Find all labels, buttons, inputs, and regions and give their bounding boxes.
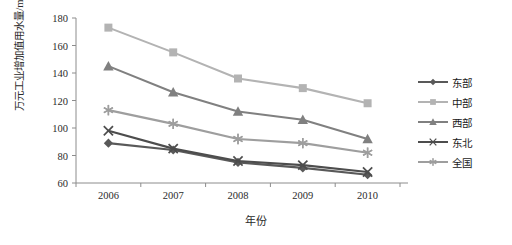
x-tick-label: 2006	[83, 190, 133, 201]
data-point-marker-diamond	[298, 163, 307, 172]
data-point-marker-square	[430, 99, 436, 105]
legend-label: 全国	[452, 155, 472, 170]
legend-swatch-icon	[418, 96, 448, 108]
data-point-marker-asterisk	[363, 148, 372, 158]
x-tick-label: 2008	[213, 190, 263, 201]
series-line	[108, 66, 367, 139]
legend-item-东北[interactable]: 东北	[418, 132, 510, 152]
data-point-marker-x	[104, 126, 113, 135]
legend-label: 西部	[452, 115, 472, 130]
x-axis-title: 年份	[0, 212, 512, 228]
data-point-marker-triangle	[362, 134, 372, 143]
data-point-marker-asterisk	[298, 138, 307, 148]
data-point-marker-diamond	[104, 139, 113, 148]
series-4	[104, 105, 372, 158]
x-tick-label: 2010	[343, 190, 393, 201]
chart-container: 万元工业增加值用水量/m³ 1801601401201008060 200620…	[0, 0, 512, 245]
data-point-marker-triangle	[103, 61, 113, 70]
series-line	[108, 110, 367, 153]
data-point-marker-x	[298, 161, 307, 170]
series-line	[108, 131, 367, 172]
legend-marker-icon	[418, 155, 448, 169]
data-point-marker-diamond	[430, 79, 437, 86]
series-1	[104, 24, 371, 108]
data-point-marker-square	[299, 84, 307, 92]
legend-item-西部[interactable]: 西部	[418, 112, 510, 132]
legend-item-全国[interactable]: 全国	[418, 152, 510, 172]
series-3	[104, 126, 372, 176]
legend-marker-icon	[418, 75, 448, 89]
legend-swatch-icon	[418, 76, 448, 88]
legend-swatch-icon	[418, 136, 448, 148]
legend-marker-icon	[418, 115, 448, 129]
y-axis-title: 万元工业增加值用水量/m³	[11, 0, 26, 134]
legend-label: 东部	[452, 75, 472, 90]
data-point-marker-x	[233, 156, 242, 165]
legend-swatch-icon	[418, 156, 448, 168]
data-point-marker-triangle	[298, 115, 308, 124]
chart-legend: 东部中部西部东北全国	[418, 72, 510, 172]
y-tick-label: 120	[38, 95, 68, 106]
data-point-marker-triangle	[168, 87, 178, 96]
series-line	[108, 28, 367, 104]
data-point-marker-asterisk	[169, 119, 178, 129]
data-point-marker-diamond	[233, 158, 242, 167]
legend-item-东部[interactable]: 东部	[418, 72, 510, 92]
legend-marker-icon	[418, 95, 448, 109]
legend-marker-icon	[418, 135, 448, 149]
y-tick-label: 180	[38, 13, 68, 24]
y-tick-label: 60	[38, 178, 68, 189]
data-point-marker-square	[234, 75, 242, 83]
series-line	[108, 143, 367, 175]
legend-label: 中部	[452, 95, 472, 110]
data-point-marker-asterisk	[430, 158, 436, 165]
y-tick-label: 160	[38, 40, 68, 51]
data-point-marker-diamond	[169, 145, 178, 154]
data-point-marker-square	[169, 48, 177, 56]
series-2	[103, 61, 373, 143]
data-point-marker-x	[169, 144, 178, 153]
data-point-marker-x	[363, 167, 372, 176]
series-0	[104, 139, 372, 180]
data-point-marker-square	[364, 99, 372, 107]
y-tick-label: 80	[38, 150, 68, 161]
data-point-marker-square	[104, 24, 112, 32]
y-tick-label: 140	[38, 68, 68, 79]
y-tick-label: 100	[38, 123, 68, 134]
legend-swatch-icon	[418, 116, 448, 128]
data-point-marker-triangle	[233, 106, 243, 115]
legend-item-中部[interactable]: 中部	[418, 92, 510, 112]
x-tick-label: 2009	[278, 190, 328, 201]
data-point-marker-asterisk	[104, 105, 113, 115]
x-tick-label: 2007	[148, 190, 198, 201]
data-point-marker-diamond	[363, 170, 372, 179]
data-point-marker-x	[430, 139, 437, 146]
data-point-marker-asterisk	[233, 134, 242, 144]
data-point-marker-triangle	[429, 118, 436, 125]
legend-label: 东北	[452, 135, 472, 150]
